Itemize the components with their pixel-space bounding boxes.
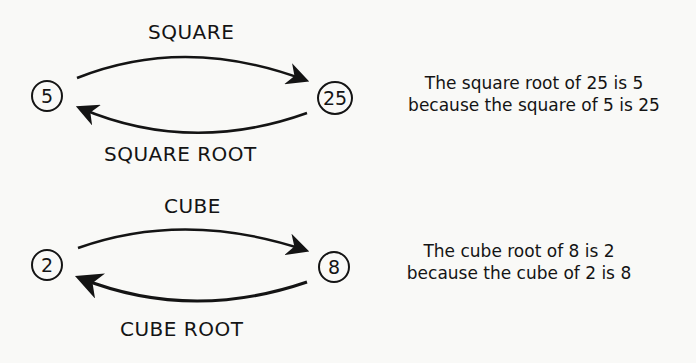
arrows-layer xyxy=(0,0,696,363)
cube-root-label: CUBE ROOT xyxy=(120,317,243,341)
square-description-line2: because the square of 5 is 25 xyxy=(388,94,680,116)
square-description: The square root of 25 is 5 because the s… xyxy=(388,72,680,116)
square-root-label: SQUARE ROOT xyxy=(104,142,257,166)
square-forward-arrow xyxy=(77,57,305,80)
cube-label: CUBE xyxy=(164,194,221,218)
cube-description-line2: because the cube of 2 is 8 xyxy=(388,262,650,284)
cube-description: The cube root of 8 is 2 because the cube… xyxy=(388,240,650,284)
cube-inverse-arrow xyxy=(80,278,307,301)
cube-description-line1: The cube root of 8 is 2 xyxy=(388,240,650,262)
node-2: 2 xyxy=(31,249,63,281)
cube-forward-arrow xyxy=(78,229,305,250)
square-description-line1: The square root of 25 is 5 xyxy=(388,72,680,94)
node-25: 25 xyxy=(317,81,353,115)
square-label: SQUARE xyxy=(148,20,234,44)
node-8: 8 xyxy=(318,251,350,283)
node-5: 5 xyxy=(31,80,63,112)
square-inverse-arrow xyxy=(80,108,307,133)
